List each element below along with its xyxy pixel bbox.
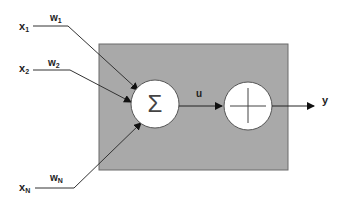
weight-label-1: w1 (49, 12, 62, 24)
svg-text:w2: w2 (47, 57, 60, 69)
svg-text:xN: xN (19, 181, 30, 194)
output-label: y (322, 94, 329, 106)
u-label: u (196, 88, 202, 99)
svg-text:x2: x2 (19, 62, 29, 75)
input-label-1: x1 (19, 20, 29, 33)
weight-label-2: w2 (47, 57, 60, 69)
neuron-diagram: Σ u y x1 w1 x2 w2 xN wN (0, 0, 342, 204)
svg-text:x1: x1 (19, 20, 29, 33)
svg-text:wN: wN (49, 172, 63, 184)
input-label-n: xN (19, 181, 30, 194)
weight-label-n: wN (49, 172, 63, 184)
summation-symbol: Σ (148, 90, 163, 117)
input-label-2: x2 (19, 62, 29, 75)
svg-text:w1: w1 (49, 12, 62, 24)
